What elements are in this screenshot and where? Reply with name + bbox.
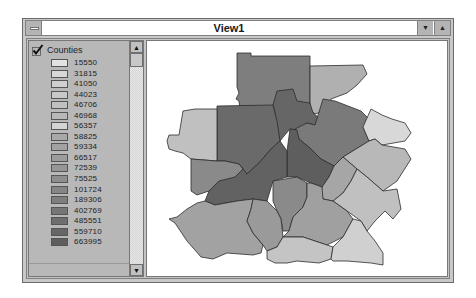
system-menu-icon — [30, 27, 39, 30]
legend-label: 189306 — [74, 195, 102, 205]
legend-swatch[interactable] — [51, 154, 68, 162]
scroll-up-button[interactable]: ▲ — [130, 41, 143, 53]
theme-name: Counties — [47, 44, 83, 56]
legend-swatch[interactable] — [51, 122, 68, 130]
legend-label: 559710 — [74, 227, 102, 237]
legend-label: 44023 — [74, 90, 97, 100]
minimize-arrow-down-icon: ▼ — [422, 24, 429, 31]
legend-swatch[interactable] — [51, 196, 68, 204]
legend-label: 101724 — [74, 185, 102, 195]
legend-label: 56357 — [74, 121, 97, 131]
system-menu-button[interactable] — [26, 21, 42, 35]
legend-label: 66517 — [74, 153, 97, 163]
scroll-down-button[interactable]: ▼ — [130, 264, 143, 276]
legend-swatch[interactable] — [51, 217, 68, 225]
table-of-contents: Counties 1555031815410504402346706469685… — [28, 40, 144, 277]
legend-label: 75525 — [74, 174, 97, 184]
scroll-up-arrow-icon: ▲ — [133, 44, 140, 51]
toc-vertical-scrollbar[interactable]: ▲ ▼ — [129, 41, 143, 276]
maximize-button[interactable]: ▲ — [434, 21, 450, 35]
legend-swatch[interactable] — [51, 207, 68, 215]
county-map[interactable] — [147, 41, 455, 279]
checkmark-icon[interactable] — [32, 44, 44, 56]
legend-label: 402769 — [74, 206, 102, 216]
legend-swatch[interactable] — [51, 133, 68, 141]
legend-label: 485551 — [74, 216, 102, 226]
county-southwest[interactable] — [169, 199, 263, 259]
minimize-button[interactable]: ▼ — [417, 21, 433, 35]
title-bar[interactable]: View1 ▼ ▲ — [25, 20, 451, 36]
toc-content: Counties 1555031815410504402346706469685… — [29, 41, 129, 276]
legend-swatch[interactable] — [51, 175, 68, 183]
window-title: View1 — [46, 21, 412, 35]
county-far-northeast[interactable] — [363, 109, 411, 145]
county-west[interactable] — [167, 109, 217, 161]
legend-swatch[interactable] — [51, 164, 68, 172]
legend-label: 58825 — [74, 132, 97, 142]
legend-swatch[interactable] — [51, 228, 68, 236]
legend-label: 663995 — [74, 237, 102, 247]
legend-swatch[interactable] — [51, 91, 68, 99]
maximize-arrow-up-icon: ▲ — [439, 24, 446, 31]
legend-label: 31815 — [74, 69, 97, 79]
county-north-center[interactable] — [236, 53, 310, 109]
map-display[interactable] — [146, 40, 448, 277]
legend-swatch[interactable] — [51, 143, 68, 151]
legend-swatch[interactable] — [51, 112, 68, 120]
legend-swatch[interactable] — [51, 59, 68, 67]
legend-swatch[interactable] — [51, 101, 68, 109]
legend-label: 46706 — [74, 100, 97, 110]
legend-label: 72539 — [74, 163, 97, 173]
legend-label: 59334 — [74, 142, 97, 152]
legend-swatch[interactable] — [51, 186, 68, 194]
legend-swatch[interactable] — [51, 70, 68, 78]
scroll-thumb[interactable] — [130, 53, 143, 67]
scroll-down-arrow-icon: ▼ — [133, 267, 140, 274]
legend-swatch[interactable] — [51, 80, 68, 88]
view-client-area: Counties 1555031815410504402346706469685… — [26, 38, 450, 279]
legend-divider — [29, 263, 129, 264]
legend-label: 46968 — [74, 111, 97, 121]
legend-swatch[interactable] — [51, 238, 68, 246]
view-window: View1 ▼ ▲ Counties 155503181541050440234… — [22, 18, 454, 283]
legend-label: 15550 — [74, 58, 97, 68]
legend-label: 41050 — [74, 79, 97, 89]
